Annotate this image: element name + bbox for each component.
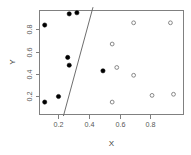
- x-axis-title: X: [109, 139, 115, 148]
- data-point-open: [172, 92, 176, 96]
- data-series-open-circles: [110, 21, 175, 104]
- data-point-open: [169, 21, 173, 25]
- data-point-open: [150, 93, 154, 97]
- decision-boundary-line: [63, 7, 93, 116]
- y-tick-label-2: 0.4: [25, 70, 34, 80]
- data-point-filled: [66, 55, 70, 59]
- data-point-open: [110, 42, 114, 46]
- data-point-open: [110, 100, 114, 104]
- x-tick-label-4: 0.8: [146, 120, 156, 129]
- data-point-filled: [101, 69, 105, 73]
- y-axis-ticks: [36, 30, 40, 97]
- data-point-filled: [67, 63, 71, 67]
- plot-frame: [40, 11, 184, 115]
- data-point-open: [115, 66, 119, 70]
- data-point-filled: [43, 100, 47, 104]
- data-point-filled: [56, 94, 60, 98]
- x-tick-label-1: 0.2: [54, 120, 64, 129]
- data-point-filled: [75, 11, 79, 15]
- data-series-filled-circles: [43, 11, 105, 105]
- x-axis-ticks: [59, 115, 151, 119]
- plot-canvas: 0.2 0.4 0.6 0.8 0.2 0.4 0.6 0.8 X Y: [0, 0, 191, 155]
- x-tick-label-2: 0.4: [85, 120, 95, 129]
- y-tick-label-1: 0.2: [25, 92, 34, 102]
- y-tick-label-4: 0.8: [25, 25, 34, 35]
- data-point-open: [132, 73, 136, 77]
- scatter-plot-figure: 0.2 0.4 0.6 0.8 0.2 0.4 0.6 0.8 X Y: [0, 0, 191, 155]
- y-axis-title: Y: [8, 59, 17, 65]
- y-tick-label-3: 0.6: [25, 48, 34, 58]
- x-tick-label-3: 0.6: [116, 120, 126, 129]
- data-point-open: [132, 21, 136, 25]
- data-point-filled: [67, 12, 71, 16]
- data-point-filled: [43, 23, 47, 27]
